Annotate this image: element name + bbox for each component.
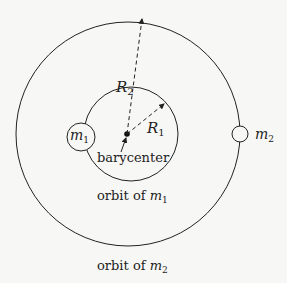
barycenter-orbit-diagram: R2 R1 m1 m2 barycenter orbit of m1 orbit… <box>0 0 287 283</box>
radius-R2 <box>127 19 142 134</box>
label-R1: R1 <box>146 119 165 138</box>
label-R2: R2 <box>115 78 134 97</box>
label-orbit-m2: orbit of m2 <box>97 258 168 275</box>
mass-m2 <box>232 126 248 142</box>
diagram-canvas: R2 R1 m1 m2 barycenter orbit of m1 orbit… <box>0 0 287 283</box>
label-barycenter: barycenter <box>97 150 170 165</box>
label-m2: m2 <box>255 126 274 144</box>
label-orbit-m1: orbit of m1 <box>97 188 168 205</box>
